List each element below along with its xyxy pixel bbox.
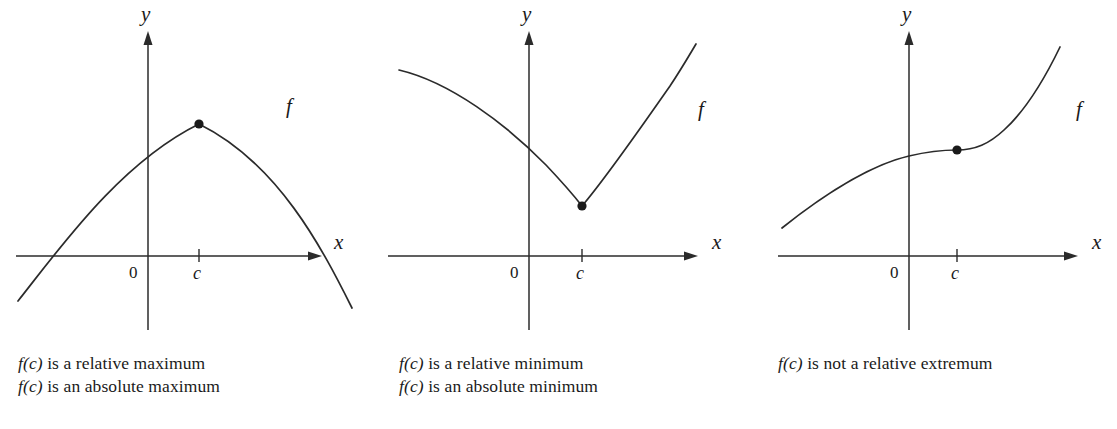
curve-f [18, 124, 352, 308]
caption-line: f(c) is a relative maximum [18, 352, 220, 375]
y-axis [905, 31, 914, 330]
y-axis [144, 31, 153, 330]
curve-f-right [582, 44, 696, 206]
caption-function: f(c) [18, 376, 43, 396]
caption-line: f(c) is not a relative extremum [778, 352, 992, 375]
tick-label-c: c [951, 263, 959, 283]
curve-f [782, 47, 1060, 228]
y-axis-label: y [900, 2, 912, 26]
x-axis [388, 252, 698, 261]
caption-relative-maximum: f(c) is a relative maximum f(c) is an ab… [18, 352, 220, 398]
origin-label: 0 [129, 263, 138, 282]
tick-label-c: c [576, 263, 584, 283]
caption-function: f(c) [18, 353, 43, 373]
panel-not-extremum: x y 0 c f f(c) is not a relative extremu… [740, 0, 1117, 429]
x-axis [778, 252, 1078, 261]
caption-text: is an absolute minimum [424, 376, 598, 396]
caption-line: f(c) is an absolute minimum [399, 375, 598, 398]
caption-not-extremum: f(c) is not a relative extremum [778, 352, 992, 375]
panel-relative-minimum: x y 0 c f f(c) is a relative minimum f(c… [380, 0, 740, 429]
caption-relative-minimum: f(c) is a relative minimum f(c) is an ab… [399, 352, 598, 398]
x-axis-label: x [333, 230, 344, 254]
relative-extrema-figure: x y 0 c f f(c) is a relative maximum f(c… [0, 0, 1117, 429]
point-c [194, 119, 203, 128]
caption-function: f(c) [778, 353, 803, 373]
graph-not-extremum: x y 0 c f [740, 0, 1117, 330]
x-axis-label: x [1091, 230, 1102, 254]
caption-text: is an absolute maximum [43, 376, 220, 396]
point-c [577, 201, 586, 210]
origin-label: 0 [510, 263, 519, 282]
y-axis-label: y [520, 2, 532, 26]
curve-label-f: f [1076, 97, 1085, 121]
caption-text: is a relative maximum [43, 353, 206, 373]
curve-f-left [399, 70, 582, 206]
graph-relative-maximum: x y 0 c f [0, 0, 380, 330]
caption-function: f(c) [399, 376, 424, 396]
x-axis [16, 252, 322, 261]
panel-relative-maximum: x y 0 c f f(c) is a relative maximum f(c… [0, 0, 380, 429]
caption-text: is a relative minimum [424, 353, 584, 373]
curve-label-f: f [286, 94, 295, 118]
origin-label: 0 [890, 263, 899, 282]
curve-label-f: f [698, 97, 707, 121]
tick-label-c: c [193, 263, 201, 283]
caption-text: is not a relative extremum [803, 353, 993, 373]
caption-line: f(c) is an absolute maximum [18, 375, 220, 398]
y-axis-label: y [139, 2, 151, 26]
caption-function: f(c) [399, 353, 424, 373]
y-axis [525, 31, 534, 330]
graph-relative-minimum: x y 0 c f [380, 0, 740, 330]
x-axis-label: x [711, 230, 722, 254]
point-c [952, 145, 961, 154]
caption-line: f(c) is a relative minimum [399, 352, 598, 375]
